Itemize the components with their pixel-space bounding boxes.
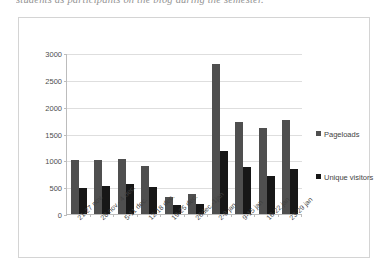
bars-layer (67, 54, 302, 214)
x-tick-mark (113, 214, 114, 217)
legend-item[interactable]: Unique visitors (316, 173, 382, 182)
chart-legend: PageloadsUnique visitors (316, 130, 382, 217)
y-tick-label: 1500 (45, 130, 62, 139)
clipped-document-text: students as participants on the blog dur… (0, 0, 388, 6)
bar-group (279, 54, 303, 214)
bar-group (138, 54, 162, 214)
bar-group (185, 54, 209, 214)
y-tick-label: 0 (58, 211, 62, 220)
y-tick-label: 2500 (45, 76, 62, 85)
x-tick-mark (231, 214, 232, 217)
x-tick-mark (137, 214, 138, 217)
legend-label: Unique visitors (324, 173, 373, 182)
y-tick-label: 2000 (45, 103, 62, 112)
x-tick-mark (278, 214, 279, 217)
y-tick-label: 3000 (45, 50, 62, 59)
bar-group (91, 54, 115, 214)
bar-pageloads[interactable] (235, 122, 243, 214)
legend-item[interactable]: Pageloads (316, 130, 382, 139)
bar-group (161, 54, 185, 214)
y-tick-mark (64, 215, 67, 216)
legend-swatch-icon (316, 174, 321, 179)
bar-group (232, 54, 256, 214)
y-tick-label: 500 (49, 184, 62, 193)
bar-group (67, 54, 91, 214)
x-tick-mark (301, 214, 302, 217)
y-tick-label: 1000 (45, 157, 62, 166)
x-tick-mark (90, 214, 91, 217)
plot-area: 050010001500200025003000 (66, 54, 302, 215)
x-tick-mark (207, 214, 208, 217)
chart-frame: 050010001500200025003000 21-27 nov.28 no… (18, 17, 370, 258)
x-tick-mark (254, 214, 255, 217)
x-tick-mark (160, 214, 161, 217)
x-tick-mark (184, 214, 185, 217)
bar-pageloads[interactable] (71, 160, 79, 214)
legend-swatch-icon (316, 131, 321, 136)
legend-label: Pageloads (324, 130, 359, 139)
bar-unique-visitors[interactable] (220, 151, 228, 214)
bar-group (255, 54, 279, 214)
